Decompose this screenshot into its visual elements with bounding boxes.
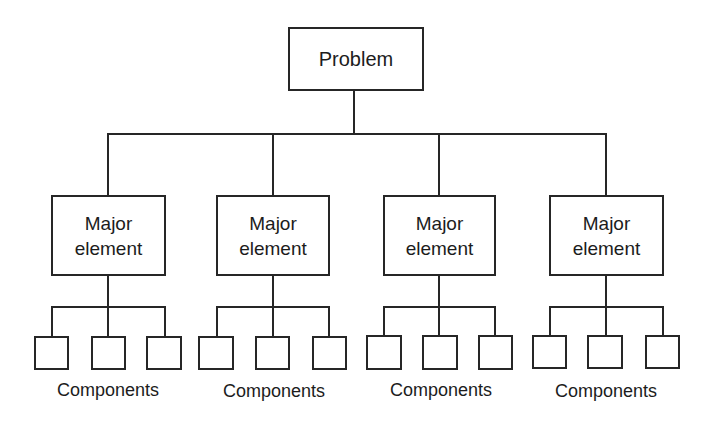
major-element-node-3: Majorelement [383, 195, 496, 276]
component-node [587, 335, 623, 369]
component-drop [383, 306, 385, 337]
component-stem-1 [107, 275, 109, 307]
component-drop [494, 306, 496, 337]
major-label-line1: Major [406, 211, 474, 236]
problem-label: Problem [319, 48, 393, 71]
component-node [34, 336, 69, 370]
component-drop [328, 306, 330, 337]
major-drop-4 [605, 133, 607, 196]
major-label-line2: element [239, 236, 307, 261]
component-node [366, 335, 402, 370]
major-label-line1: Major [573, 211, 641, 236]
major-label-line2: element [573, 236, 641, 261]
major-label-line1: Major [239, 211, 307, 236]
component-drop [216, 306, 218, 337]
component-drop [164, 306, 166, 337]
component-node [255, 336, 290, 370]
components-caption-2: Components [194, 381, 354, 402]
component-node [422, 335, 458, 370]
major-drop-2 [272, 133, 274, 196]
component-drop [272, 306, 274, 337]
problem-node: Problem [288, 27, 424, 91]
component-drop [107, 306, 109, 337]
component-node [146, 336, 182, 370]
component-node [312, 336, 347, 370]
component-node [91, 336, 126, 370]
component-drop [662, 306, 664, 337]
major-element-node-2: Majorelement [216, 195, 330, 276]
component-node [198, 336, 234, 370]
component-node [478, 335, 513, 370]
components-caption-4: Components [526, 381, 686, 402]
major-drop-1 [107, 133, 109, 196]
components-caption-1: Components [28, 380, 188, 401]
major-element-node-4: Majorelement [549, 195, 664, 276]
major-label-line2: element [406, 236, 474, 261]
component-drop [51, 306, 53, 337]
component-node [532, 335, 567, 369]
major-label-line2: element [75, 236, 143, 261]
components-caption-3: Components [361, 380, 521, 401]
component-node [645, 335, 680, 369]
major-drop-3 [438, 133, 440, 196]
major-label-line1: Major [75, 211, 143, 236]
major-element-node-1: Majorelement [51, 195, 166, 276]
component-drop [549, 306, 551, 337]
component-drop [605, 306, 607, 337]
component-stem-2 [272, 275, 274, 307]
main-bus [107, 133, 607, 135]
component-drop [438, 306, 440, 337]
component-stem-4 [605, 275, 607, 307]
root-stem [353, 90, 355, 135]
component-stem-3 [438, 275, 440, 307]
